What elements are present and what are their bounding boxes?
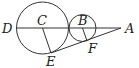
segment-CE [43,28,52,53]
label-D: D [1,21,13,36]
geometry-diagram: D C B A E F [0,0,139,68]
tangent-EA [51,28,121,53]
label-B: B [77,13,88,28]
label-F: F [87,41,98,56]
label-C: C [37,13,47,28]
label-A: A [124,21,134,36]
label-E: E [45,54,56,68]
segment-BF [83,28,88,41]
